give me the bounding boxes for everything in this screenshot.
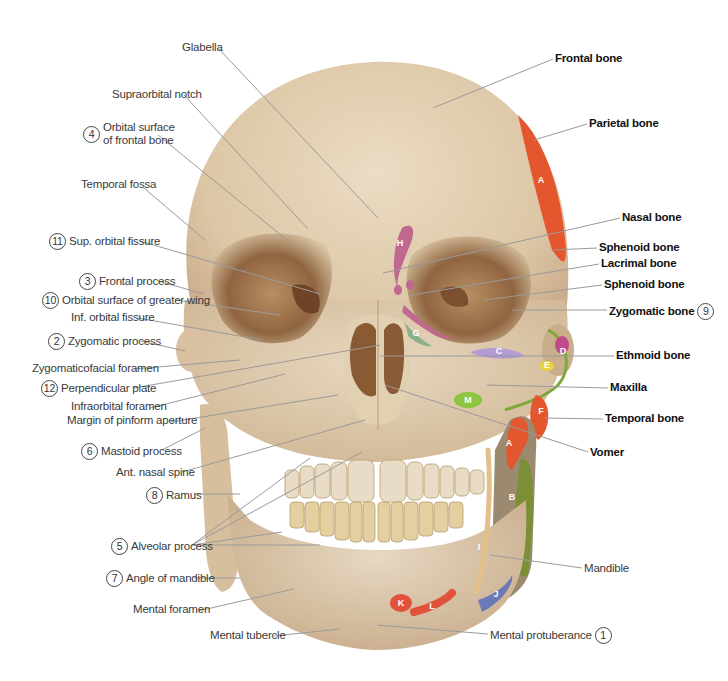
label-text: Ramus [166,489,201,502]
label-text: Mental protuberance [490,629,592,642]
label-mental-tubercle: Mental tubercle [210,629,286,642]
region-marker-m: M [464,395,472,405]
label-text: Supraorbital notch [112,88,202,101]
label-text: Mandible [584,562,629,575]
label-zygomatic-bone: Zygomatic bone9 [609,303,717,320]
upper-teeth [285,460,484,502]
label-text: Vomer [590,446,624,459]
label-temporal-bone: Temporal bone [605,412,684,425]
label-ramus: 8Ramus [143,487,201,504]
skull-diagram: GlabellaSupraorbital notch4Orbital surfa… [0,0,728,681]
label-number-badge: 2 [48,333,65,350]
label-text: Zygomaticofacial foramen [32,362,159,375]
leader-line [534,124,587,140]
region-marker-c: C [496,346,503,356]
label-number-badge: 8 [146,487,163,504]
label-number-badge: 5 [111,538,128,555]
region-marker-a: A [538,175,545,185]
region-marker-d: D [560,346,567,356]
label-text: Sphenoid bone [599,241,679,254]
leader-line [545,418,603,419]
label-text: Glabella [182,41,223,54]
region-marker-i: I [478,542,481,552]
label-angle-of-mandible: 7Angle of mandible [103,570,215,587]
label-text: Ant. nasal spine [116,466,195,479]
region-marker-b: B [509,492,516,502]
label-infraorbital-foramen: Infraorbital foramen [71,400,167,413]
label-alveolar-process: 5Alveolar process [108,538,213,555]
label-text: Nasal bone [622,211,681,224]
label-number-badge: 11 [49,233,66,250]
label-text: Perpendicular plate [61,382,156,395]
label-sphenoid-bone-2: Sphenoid bone [604,278,684,291]
label-text: Zygomatic process [68,335,161,348]
label-text: Mental foramen [133,603,210,616]
region-marker-e: E [544,360,550,370]
region-marker-g: G [412,328,419,338]
label-text: Sphenoid bone [604,278,684,291]
region-marker-k: K [398,598,405,608]
label-text: Margin of pinform aperture [67,414,197,427]
label-text: Zygomatic bone [609,305,694,318]
label-sphenoid-bone-1: Sphenoid bone [599,241,679,254]
label-parietal-bone: Parietal bone [589,117,659,130]
label-maxilla: Maxilla [610,381,647,394]
label-text: Parietal bone [589,117,659,130]
label-mastoid-process: 6Mastoid process [78,443,182,460]
label-frontal-process: 3Frontal process [76,273,175,290]
label-text: Sup. orbital fissure [69,235,160,248]
label-orbital-surface-frontal: 4Orbital surface of frontal bone [80,121,175,147]
region-marker-h: H [397,238,404,248]
label-glabella: Glabella [182,41,223,54]
label-zygomatic-process: 2Zygomatic process [45,333,161,350]
label-number-badge: 3 [79,273,96,290]
label-number-badge: 7 [106,570,123,587]
label-vomer: Vomer [590,446,624,459]
label-text: Inf. orbital fissure [71,311,155,324]
label-mental-protuberance: Mental protuberance1 [490,627,615,644]
label-text: Alveolar process [131,540,213,553]
label-number-badge: 9 [697,303,714,320]
label-text: Mastoid process [101,445,182,458]
region-marker-a: A [506,438,513,448]
label-text: Mental tubercle [210,629,286,642]
label-text: Frontal bone [555,52,622,65]
label-sup-orbital-fissure: 11Sup. orbital fissure [46,233,160,250]
label-mental-foramen: Mental foramen [133,603,210,616]
label-perpendicular-plate: 12Perpendicular plate [38,380,156,397]
region-marker-l: L [429,601,435,611]
label-ethmoid-bone: Ethmoid bone [616,349,690,362]
label-text: Frontal process [99,275,175,288]
label-text: Temporal fossa [81,178,156,191]
region-marker-f: F [538,406,544,416]
label-text: Angle of mandible [126,572,215,585]
label-supraorbital-notch: Supraorbital notch [112,88,202,101]
label-text: Ethmoid bone [616,349,690,362]
label-frontal-bone: Frontal bone [555,52,622,65]
label-margin-piriform-aperture: Margin of pinform aperture [67,414,197,427]
label-mandible: Mandible [584,562,629,575]
label-text: Lacrimal bone [601,257,676,270]
lower-teeth [290,502,463,542]
label-text: Temporal bone [605,412,684,425]
label-text: Maxilla [610,381,647,394]
label-lacrimal-bone: Lacrimal bone [601,257,676,270]
label-number-badge: 12 [41,380,58,397]
label-number-badge: 6 [81,443,98,460]
label-zygomaticofacial-foramen: Zygomaticofacial foramen [32,362,159,375]
label-number-badge: 10 [42,292,59,309]
region-marker-j: J [493,589,498,599]
label-text: Orbital surface of greater wing [62,294,210,307]
label-ant-nasal-spine: Ant. nasal spine [116,466,195,479]
label-inf-orbital-fissure: Inf. orbital fissure [71,311,155,324]
label-temporal-fossa: Temporal fossa [81,178,156,191]
label-number-badge: 4 [83,126,100,143]
label-number-badge: 1 [595,627,612,644]
label-text: Infraorbital foramen [71,400,167,413]
label-text: Orbital surface of frontal bone [103,121,175,147]
label-orbital-surface-greater-wing: 10Orbital surface of greater wing [39,292,210,309]
label-nasal-bone: Nasal bone [622,211,681,224]
